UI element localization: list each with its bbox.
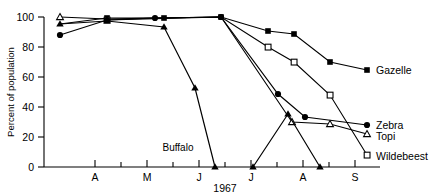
series-topi: Topi <box>57 14 396 142</box>
gazelle-point <box>364 67 370 73</box>
y-tick-label-100: 100 <box>16 11 34 23</box>
series-label-topi: Topi <box>376 130 395 142</box>
zebra-line <box>60 17 367 125</box>
x-axis-title: 1967 <box>213 182 237 194</box>
y-tick-labels: 100 80 60 40 20 0 <box>16 11 34 173</box>
zebra-point <box>364 122 370 128</box>
wildebeest-point <box>364 152 370 158</box>
gazelle-point <box>265 28 271 34</box>
x-tick-label-september: S <box>351 171 358 183</box>
buffalo-point <box>284 110 291 116</box>
topi-markers <box>57 14 371 137</box>
y-tick-marks <box>38 17 44 167</box>
zebra-markers <box>57 14 370 128</box>
series-label-wildebeest: Wildebeest <box>376 150 428 162</box>
gazelle-markers <box>104 14 370 73</box>
population-decline-line-chart: 100 80 60 40 20 0 A M J J A S Percent of… <box>0 0 432 195</box>
y-tick-label-0: 0 <box>28 161 34 173</box>
buffalo-line-segment-2 <box>253 114 320 167</box>
y-axis-title: Percent of population <box>5 47 16 137</box>
y-tick-label-60: 60 <box>22 71 34 83</box>
wildebeest-point <box>291 59 297 65</box>
x-tick-label-april: A <box>91 171 98 183</box>
gazelle-point <box>327 59 333 65</box>
x-tick-label-june: J <box>196 171 201 183</box>
zebra-point <box>302 114 308 120</box>
y-tick-label-40: 40 <box>22 101 34 113</box>
series-buffalo: Buffalo <box>56 17 323 169</box>
x-tick-label-august: A <box>299 171 306 183</box>
buffalo-point <box>316 163 323 169</box>
series-gazelle: Gazelle <box>60 14 412 76</box>
gazelle-point <box>291 31 297 37</box>
buffalo-point <box>211 163 218 169</box>
series-label-buffalo: Buffalo <box>163 142 194 153</box>
y-tick-label-80: 80 <box>22 41 34 53</box>
wildebeest-point <box>265 44 271 50</box>
buffalo-point <box>191 84 198 90</box>
x-tick-label-may: M <box>143 171 152 183</box>
topi-line <box>60 17 367 134</box>
series-label-gazelle: Gazelle <box>376 64 412 76</box>
zebra-point <box>275 91 281 97</box>
gazelle-line <box>60 17 367 70</box>
x-tick-label-july: J <box>248 171 253 183</box>
wildebeest-point <box>327 92 333 98</box>
chart-figure: 100 80 60 40 20 0 A M J J A S Percent of… <box>0 0 432 195</box>
zebra-point <box>57 32 63 38</box>
y-tick-label-20: 20 <box>22 131 34 143</box>
